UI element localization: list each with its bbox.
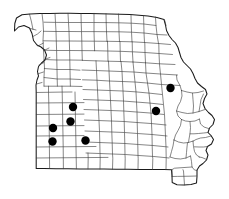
county-marker-dot [81, 136, 89, 144]
county-marker-dot [48, 137, 56, 145]
map-svg [0, 0, 229, 199]
missouri-state-outline [15, 13, 215, 185]
county-marker-dot [66, 117, 74, 125]
distribution-map-figure [0, 0, 229, 199]
county-marker-dot [152, 107, 160, 115]
county-marker-dot [69, 103, 77, 111]
county-marker-dot [49, 124, 57, 132]
state-boundary-group [15, 13, 215, 185]
county-marker-dot [166, 84, 174, 92]
